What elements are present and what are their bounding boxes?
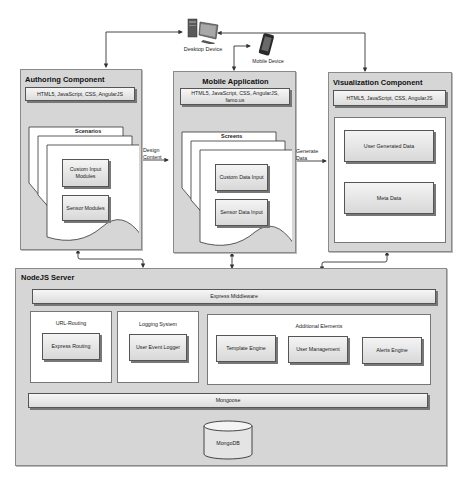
custom-input-modules: Custom Input Modules (62, 159, 109, 187)
server-title: NodeJS Server (21, 273, 74, 282)
mongoose-layer: Mongoose (28, 393, 428, 408)
meta-data: Meta Data (344, 182, 434, 214)
nodejs-server: NodeJS Server Express Middleware URL-Rou… (15, 268, 447, 466)
mobile-application: Mobile Application HTML5, JavaScript, CS… (173, 71, 296, 253)
desktop-computer-icon (182, 12, 226, 44)
alerts-engine: Alerts Engine (362, 337, 422, 364)
desktop-device: Desktop Device (178, 12, 228, 57)
smartphone-icon (257, 32, 277, 58)
screens-title: Screens (221, 133, 242, 139)
design-content-label: Design Content (143, 147, 169, 160)
template-engine: Template Engine (216, 335, 276, 362)
logging-system-title: Logging System (117, 321, 199, 327)
scenarios-title: Scenarios (75, 128, 101, 134)
user-event-logger: User Event Logger (129, 334, 187, 361)
visualization-component: Visualization Component HTML5, JavaScrip… (328, 72, 452, 252)
express-routing: Express Routing (42, 333, 100, 360)
user-generated-data: User Generated Data (344, 130, 434, 162)
mongodb-label: MongoDB (202, 440, 254, 446)
mobile-device: Mobile Device (246, 32, 290, 66)
sensor-modules: Sensor Modules (62, 195, 109, 221)
authoring-component: Authoring Component HTML5, JavaScript, C… (20, 69, 142, 250)
express-middleware: Express Middleware (32, 289, 436, 304)
user-management: User Management (288, 336, 348, 363)
additional-elements-title: Additional Elements (207, 323, 431, 329)
visualization-title: Visualization Component (333, 78, 422, 87)
generate-data-label: Generate Data (296, 148, 324, 161)
authoring-title: Authoring Component (25, 75, 105, 84)
url-routing-title: URL-Routing (30, 320, 112, 326)
custom-data-input: Custom Data Input (215, 164, 268, 191)
mobile-app-title: Mobile Application (174, 77, 297, 86)
sensor-data-input: Sensor Data Input (215, 199, 268, 226)
desktop-device-label: Desktop Device (178, 46, 228, 52)
visualization-tech-stack: HTML5, JavaScript, CSS, AngularJS (333, 90, 446, 106)
mobile-device-label: Mobile Device (246, 58, 290, 64)
